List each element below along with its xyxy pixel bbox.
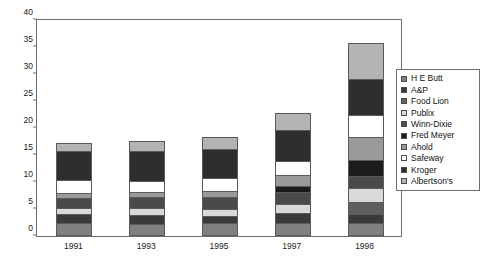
legend-item-label: Food Lion — [411, 97, 449, 106]
y-axis-tick-mark — [33, 100, 37, 101]
legend-item[interactable]: Food Lion — [401, 96, 476, 107]
x-axis-tick-label: 1998 — [330, 242, 400, 251]
legend-item-label: Publix — [411, 109, 434, 118]
bar-segment[interactable] — [349, 203, 383, 215]
legend-swatch-icon — [401, 110, 407, 116]
bar-slot: 1998 — [348, 20, 382, 236]
bar-segment[interactable] — [130, 209, 164, 216]
legend-item-label: Ahold — [411, 143, 433, 152]
legend-item-label: Winn-Dixie — [411, 120, 452, 129]
bar-segment[interactable] — [276, 193, 310, 205]
bar-segment[interactable] — [130, 152, 164, 181]
bar-segment[interactable] — [203, 217, 237, 225]
legend-swatch-icon — [401, 167, 407, 173]
bar-segment[interactable] — [57, 152, 91, 181]
bar-segment[interactable] — [57, 215, 91, 224]
y-axis-tick-mark — [33, 154, 37, 155]
legend-item[interactable]: Ahold — [401, 141, 476, 152]
bar-segment[interactable] — [349, 116, 383, 139]
y-axis-tick-label: 20 — [24, 115, 33, 124]
y-axis-tick-mark — [33, 235, 37, 236]
bar-segment[interactable] — [276, 162, 310, 176]
y-axis-tick-label: 35 — [24, 34, 33, 43]
stacked-bar[interactable] — [129, 141, 165, 236]
y-axis-tick-mark — [33, 127, 37, 128]
bar-segment[interactable] — [130, 182, 164, 193]
legend-item-label: H E Butt — [411, 74, 443, 83]
legend-swatch-icon — [401, 98, 407, 104]
bar-segment[interactable] — [57, 181, 91, 194]
y-axis-tick-label: 10 — [24, 169, 33, 178]
legend-item[interactable]: Albertson's — [401, 176, 476, 187]
legend-item[interactable]: H E Butt — [401, 73, 476, 84]
bar-segment[interactable] — [203, 224, 237, 235]
bar-segment[interactable] — [276, 214, 310, 224]
legend-swatch-icon — [401, 76, 407, 82]
y-axis-tick-label: 0 — [28, 223, 33, 232]
legend-item-label: Kroger — [411, 166, 437, 175]
bar-segment[interactable] — [57, 144, 91, 153]
stacked-bar[interactable] — [56, 143, 92, 236]
legend-item-label: Fred Meyer — [411, 131, 454, 140]
bar-slot: 1993 — [129, 20, 163, 236]
bar-segment[interactable] — [203, 150, 237, 180]
y-axis-tick-mark — [33, 73, 37, 74]
stacked-bar[interactable] — [348, 43, 384, 236]
legend-item[interactable]: A&P — [401, 84, 476, 95]
legend-item[interactable]: Winn-Dixie — [401, 119, 476, 130]
bar-segment[interactable] — [203, 210, 237, 217]
bar-segment[interactable] — [276, 176, 310, 187]
bar-slot: 1991 — [56, 20, 90, 236]
legend-item[interactable]: Kroger — [401, 164, 476, 175]
bar-segment[interactable] — [276, 131, 310, 162]
legend-item-label: Albertson's — [411, 177, 453, 186]
legend-swatch-icon — [401, 121, 407, 127]
legend-item[interactable]: Safeway — [401, 153, 476, 164]
bar-segment[interactable] — [203, 138, 237, 149]
legend-item[interactable]: Fred Meyer — [401, 130, 476, 141]
bar-slot: 1997 — [275, 20, 309, 236]
chart-legend: H E ButtA&PFood LionPublixWinn-DixieFred… — [396, 69, 480, 191]
bar-segment[interactable] — [130, 225, 164, 235]
bar-segment[interactable] — [130, 142, 164, 152]
legend-item-label: Safeway — [411, 154, 444, 163]
x-axis-tick-label: 1991 — [38, 242, 108, 251]
stacked-bar[interactable] — [275, 113, 311, 236]
bar-slot: 1995 — [202, 20, 236, 236]
y-axis-tick-mark — [33, 46, 37, 47]
bar-segment[interactable] — [349, 138, 383, 160]
bar-segment[interactable] — [349, 161, 383, 177]
bar-segment[interactable] — [349, 189, 383, 203]
stacked-bar-chart: 0510152025303540 19911993199519971998 H … — [0, 0, 483, 272]
y-axis-tick-mark — [33, 181, 37, 182]
stacked-bar[interactable] — [202, 137, 238, 236]
bar-segment[interactable] — [57, 199, 91, 209]
bar-segment[interactable] — [203, 179, 237, 191]
legend-item-label: A&P — [411, 86, 428, 95]
legend-item[interactable]: Publix — [401, 107, 476, 118]
bar-segment[interactable] — [130, 198, 164, 209]
y-axis-tick-label: 5 — [28, 196, 33, 205]
legend-swatch-icon — [401, 87, 407, 93]
bar-segment[interactable] — [203, 198, 237, 209]
bar-segment[interactable] — [349, 44, 383, 79]
bar-segment[interactable] — [57, 224, 91, 235]
y-axis-tick-label: 40 — [24, 7, 33, 16]
bar-segment[interactable] — [276, 205, 310, 214]
bar-segment[interactable] — [276, 224, 310, 235]
bar-segment[interactable] — [349, 177, 383, 189]
bar-segment[interactable] — [349, 80, 383, 116]
bar-segment[interactable] — [349, 224, 383, 235]
bar-segment[interactable] — [349, 215, 383, 224]
y-axis-tick-label: 30 — [24, 61, 33, 70]
plot-area: 0510152025303540 19911993199519971998 — [36, 19, 402, 237]
y-axis-tick-mark — [33, 19, 37, 20]
y-axis-tick-label: 25 — [24, 88, 33, 97]
y-axis-tick-mark — [33, 208, 37, 209]
bar-segment[interactable] — [276, 114, 310, 131]
legend-swatch-icon — [401, 178, 407, 184]
bar-segment[interactable] — [130, 216, 164, 225]
y-axis-tick-label: 15 — [24, 142, 33, 151]
legend-swatch-icon — [401, 144, 407, 150]
legend-swatch-icon — [401, 133, 407, 139]
